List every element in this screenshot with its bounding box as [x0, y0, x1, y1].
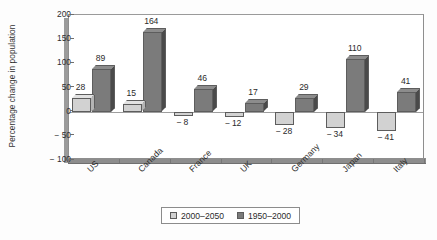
bar-value-label: 17: [237, 87, 270, 97]
bar-value-label: − 28: [267, 126, 300, 136]
legend-item-label: 1950–2000: [248, 211, 291, 221]
bar-value-label: 46: [186, 73, 219, 83]
bar-side-face: [264, 99, 268, 111]
bar-side-face: [111, 65, 115, 112]
bar-value-label: − 34: [318, 129, 351, 139]
bar-front-face: [72, 98, 91, 112]
bar-japan-series1: [326, 112, 345, 128]
bar-side-face: [365, 55, 369, 112]
legend-item-2: 1950–2000: [237, 211, 291, 221]
bar-side-face: [416, 88, 420, 112]
bar-value-label: − 41: [369, 132, 402, 142]
population-change-bar-chart: Percentage change in population 20015010…: [0, 0, 437, 240]
bar-value-label: − 8: [166, 117, 199, 127]
y-axis-tick-mark: [70, 134, 74, 135]
bar-front-face: [245, 103, 264, 111]
x-axis-tick-mark: [68, 159, 69, 163]
bar-front-face: [275, 112, 294, 126]
bar-side-face: [314, 94, 318, 112]
bar-japan-series2: [346, 59, 365, 112]
x-axis-tick-mark: [322, 159, 323, 163]
bar-value-label: 89: [84, 53, 117, 63]
bar-front-face: [326, 112, 345, 128]
x-axis-tick-mark: [119, 159, 120, 163]
bar-france-series2: [194, 89, 213, 111]
bar-side-face: [213, 85, 217, 111]
legend-swatch-icon: [237, 212, 244, 219]
bar-uk-series2: [245, 103, 264, 111]
bar-italy-series1: [377, 112, 396, 132]
chart-legend: 2000–20501950–2000: [161, 207, 300, 224]
bar-front-face: [174, 112, 193, 116]
bar-value-label: 110: [338, 43, 371, 53]
y-axis-tick-mark: [70, 14, 74, 15]
legend-swatch-icon: [170, 212, 177, 219]
x-axis-tick-mark: [424, 159, 425, 163]
bar-front-face: [225, 112, 244, 118]
bar-france-series1: [174, 112, 193, 116]
bar-front-face: [295, 98, 314, 112]
bar-value-label: 41: [389, 76, 422, 86]
y-axis-tick-mark: [70, 62, 74, 63]
bar-value-label: 164: [135, 16, 168, 26]
bar-front-face: [397, 92, 416, 112]
x-axis-tick-mark: [221, 159, 222, 163]
bar-front-face: [346, 59, 365, 112]
y-axis-title: Percentage change in population: [0, 16, 26, 156]
x-axis-tick-mark: [373, 159, 374, 163]
bar-front-face: [123, 104, 142, 111]
bar-canada-series1: [123, 104, 142, 111]
bar-uk-series1: [225, 112, 244, 118]
y-axis-title-text: Percentage change in population: [8, 25, 18, 148]
bar-germany-series2: [295, 98, 314, 112]
x-axis-tick-mark: [271, 159, 272, 163]
bar-side-face: [162, 28, 166, 111]
y-axis-tick-mark: [70, 159, 74, 160]
x-axis-tick-mark: [170, 159, 171, 163]
bar-italy-series2: [397, 92, 416, 112]
bar-us-series1: [72, 98, 91, 112]
bar-value-label: 29: [287, 82, 320, 92]
bar-value-label: − 12: [217, 118, 250, 128]
legend-item-1: 2000–2050: [170, 211, 224, 221]
bar-front-face: [377, 112, 396, 132]
bar-front-face: [194, 89, 213, 111]
bar-germany-series1: [275, 112, 294, 126]
legend-item-label: 2000–2050: [181, 211, 224, 221]
y-axis-tick-mark: [70, 38, 74, 39]
